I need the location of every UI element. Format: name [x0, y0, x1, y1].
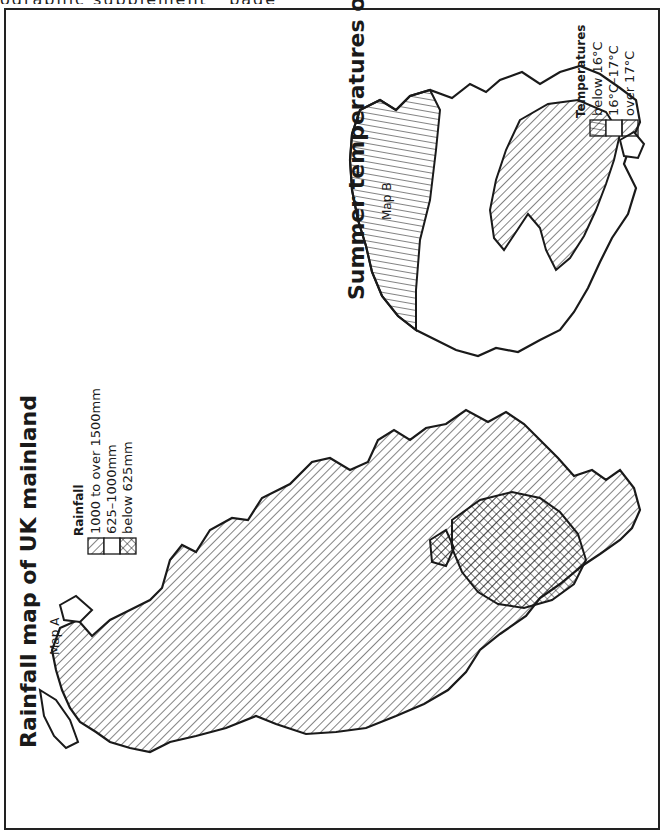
map-b-legend-swatches — [590, 120, 638, 136]
map-a-legend-item-1: 1000 to over 1500mm — [88, 388, 103, 534]
map-a-label: Map A — [48, 618, 62, 655]
map-a-legend-item-2: 625–1000mm — [104, 444, 119, 534]
map-b-legend-item-3: over 17°C — [622, 51, 637, 116]
map-a-legend-item-3: below 625mm — [120, 441, 135, 534]
map-a-title: Rainfall map of UK mainland — [16, 395, 41, 748]
map-b-legend-item-1: below 16°C — [590, 41, 605, 116]
map-a-legend-swatches — [88, 538, 136, 554]
map-a-legend-title: Rainfall — [72, 484, 86, 536]
map-a-island — [60, 596, 92, 622]
map-b-legend-item-2: 16°C–17°C — [606, 45, 621, 116]
map-b-title: Summer temperatures on UK mainland — [344, 0, 369, 300]
map-b-label: Map B — [380, 183, 394, 220]
map-b-legend-title: Temperatures — [574, 25, 588, 118]
